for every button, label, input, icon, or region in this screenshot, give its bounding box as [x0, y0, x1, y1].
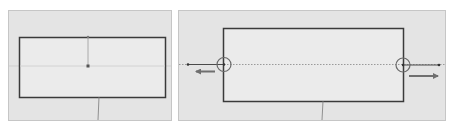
right-handle-dot — [438, 64, 441, 67]
figure-canvas — [0, 0, 456, 130]
top-midpoint-marker — [87, 36, 89, 38]
after-rectangle — [224, 29, 404, 102]
center-point-marker — [87, 65, 90, 68]
diagram-overlay — [0, 0, 456, 130]
after-diagram — [179, 29, 445, 121]
left-handle-dot — [187, 63, 190, 66]
before-rectangle — [20, 38, 166, 98]
right-handle-center — [402, 64, 404, 66]
left-handle-center — [223, 63, 225, 65]
below-extension-line — [98, 97, 99, 120]
before-diagram — [9, 36, 171, 120]
below-extension-line — [322, 101, 323, 120]
